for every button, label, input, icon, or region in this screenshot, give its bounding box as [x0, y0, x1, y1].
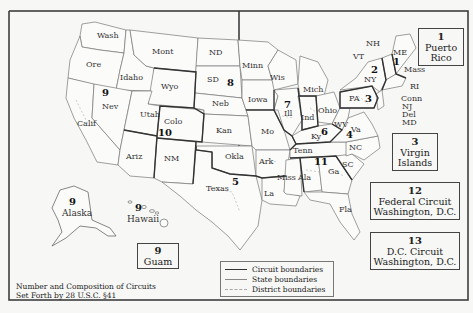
box-puerto-rico-number: 1 — [419, 31, 463, 43]
state-label-mont: Mont — [152, 48, 173, 56]
state-label-nh: NH — [366, 40, 380, 48]
state-label-tenn: Tenn — [293, 147, 313, 155]
state-label-hawaii: Hawaii — [127, 215, 159, 224]
state-label-ky: Ky — [311, 133, 321, 141]
state-label-wis: Wis — [270, 74, 285, 82]
box-dc-circuit: 13 D.C. Circuit Washington, D.C. — [370, 232, 460, 270]
circuit-number-11: 11 — [314, 157, 328, 167]
map-caption: Number and Composition of Circuits Set F… — [16, 283, 156, 300]
state-label-nm: NM — [164, 155, 179, 163]
state-label-nd: ND — [209, 49, 222, 57]
state-label-ark: Ark — [259, 158, 273, 166]
state-label-fla: Fla — [339, 206, 352, 214]
legend-row-circuit: Circuit boundaries — [225, 264, 323, 274]
district-line-swatch — [225, 289, 247, 290]
box-virgin-islands: 3 Virgin Islands — [392, 133, 438, 171]
box-federal-line2: Washington, D.C. — [371, 207, 459, 218]
legend-district-label: District boundaries — [252, 285, 325, 294]
state-label-okla: Okla — [225, 153, 244, 161]
state-label-nc: NC — [349, 144, 362, 152]
circuit-number-9-west: 9 — [102, 88, 109, 98]
state-label-ri: RI — [410, 83, 419, 91]
state-label-minn: Minn — [242, 62, 263, 70]
state-label-wv: WV — [334, 121, 348, 129]
legend-row-district: District boundaries — [225, 284, 325, 294]
circuit-number-7: 7 — [284, 100, 291, 110]
caption-line-2: Set Forth by 28 U.S.C. §41 — [16, 292, 156, 301]
state-label-nev: Nev — [102, 103, 118, 111]
state-label-utah: Utah — [140, 111, 160, 119]
circuit-number-9-hawaii: 9 — [135, 203, 142, 213]
state-label-md: MD — [402, 119, 417, 127]
state-label-ind: Ind — [301, 114, 314, 122]
state-label-ny: NY — [364, 76, 376, 84]
circuit-number-8: 8 — [227, 78, 234, 88]
state-label-miss: Miss — [277, 174, 296, 182]
circuit-number-5: 5 — [232, 177, 239, 187]
box-federal-circuit: 12 Federal Circuit Washington, D.C. — [370, 182, 460, 220]
box-guam-number: 9 — [138, 245, 178, 257]
legend-row-state: State boundaries — [225, 274, 317, 284]
box-dc-line2: Washington, D.C. — [371, 257, 459, 268]
box-guam-line1: Guam — [138, 257, 178, 268]
box-federal-number: 12 — [371, 185, 459, 197]
state-label-vt: VT — [353, 53, 364, 61]
legend-circuit-label: Circuit boundaries — [252, 265, 323, 274]
box-puerto-rico: 1 Puerto Rico — [418, 28, 464, 66]
state-label-kan: Kan — [216, 127, 232, 135]
state-label-mass: Mass — [404, 66, 425, 74]
circuit-number-1: 1 — [393, 57, 400, 67]
state-label-colo: Colo — [164, 118, 182, 126]
state-label-mich: Mich — [303, 86, 323, 94]
circuit-line-swatch — [225, 269, 247, 270]
state-line-swatch — [225, 279, 247, 280]
state-label-pa: PA — [349, 95, 359, 103]
circuit-map-page: Wash Ore Calif Idaho Nev Mont Wyo Utah C… — [0, 0, 473, 313]
box-guam: 9 Guam — [137, 243, 179, 269]
state-label-ga: Ga — [328, 168, 339, 176]
state-label-calif: Calif — [77, 120, 96, 128]
state-label-ore: Ore — [86, 61, 101, 69]
state-label-mo: Mo — [261, 128, 274, 136]
state-label-sd: SD — [207, 76, 219, 84]
circuit-number-6: 6 — [321, 127, 328, 137]
state-label-ohio: Ohio — [318, 107, 337, 115]
circuit-number-4: 4 — [346, 130, 353, 140]
state-label-ala: Ala — [298, 174, 311, 182]
box-virgin-islands-number: 3 — [393, 136, 437, 148]
state-label-ill: Ill — [284, 110, 292, 118]
state-label-alaska: Alaska — [62, 209, 92, 218]
state-label-texas: Texas — [206, 185, 229, 193]
state-label-iowa: Iowa — [248, 96, 268, 104]
circuit-number-3: 3 — [365, 94, 372, 104]
state-label-sc: SC — [342, 161, 354, 169]
circuit-number-9-alaska: 9 — [69, 197, 76, 207]
circuit-number-2: 2 — [371, 65, 378, 75]
circuit-number-10: 10 — [158, 128, 172, 138]
map-legend: Circuit boundaries State boundaries Dist… — [220, 261, 334, 297]
state-label-wyo: Wyo — [161, 83, 178, 91]
legend-state-label: State boundaries — [252, 275, 317, 284]
state-label-neb: Neb — [212, 100, 229, 108]
box-virgin-islands-line2: Islands — [393, 158, 437, 169]
state-label-idaho: Idaho — [120, 74, 143, 82]
state-label-wash: Wash — [97, 32, 119, 40]
box-puerto-rico-line2: Rico — [419, 53, 463, 64]
state-label-ariz: Ariz — [126, 153, 142, 161]
state-label-la: La — [264, 190, 274, 198]
box-dc-number: 13 — [371, 235, 459, 247]
